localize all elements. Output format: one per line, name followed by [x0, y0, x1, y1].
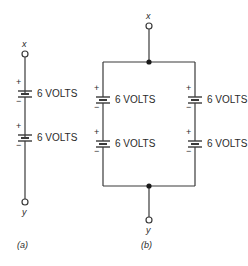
- terminal-label-y-a: y: [22, 208, 27, 217]
- battery-label: 6 VOLTS: [207, 139, 247, 149]
- minus-sign: −: [16, 97, 21, 106]
- junction-dot-bottom: [146, 183, 151, 188]
- terminal-y-b: [146, 217, 152, 223]
- terminal-label-y-b: y: [146, 226, 151, 235]
- plus-sign: +: [94, 128, 99, 137]
- battery-label: 6 VOLTS: [115, 139, 155, 149]
- minus-sign: −: [94, 103, 99, 112]
- junction-dot-top: [146, 59, 151, 64]
- battery-label: 6 VOLTS: [37, 133, 77, 143]
- terminal-label-x-a: x: [22, 40, 27, 49]
- minus-sign: −: [186, 147, 191, 156]
- terminal-label-x-b: x: [146, 12, 151, 21]
- plus-sign: +: [94, 84, 99, 93]
- terminal-x-b: [146, 23, 152, 29]
- plus-sign: +: [186, 128, 191, 137]
- terminal-x-a: [22, 51, 28, 57]
- minus-sign: −: [94, 147, 99, 156]
- minus-sign: −: [16, 141, 21, 150]
- battery-label: 6 VOLTS: [37, 89, 77, 99]
- minus-sign: −: [186, 103, 191, 112]
- plus-sign: +: [186, 84, 191, 93]
- terminal-y-a: [22, 199, 28, 205]
- caption-a: (a): [17, 241, 28, 250]
- plus-sign: +: [16, 78, 21, 87]
- circuit-diagram: x + 6 VOLTS − + 6 VOLTS − y (a) x + 6 VO…: [0, 0, 247, 266]
- battery-label: 6 VOLTS: [115, 95, 155, 105]
- caption-b: (b): [141, 241, 152, 250]
- battery-label: 6 VOLTS: [207, 95, 247, 105]
- plus-sign: +: [16, 122, 21, 131]
